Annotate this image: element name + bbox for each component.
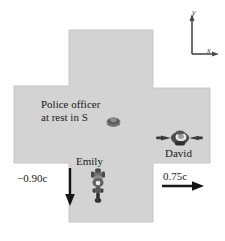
road-diagram: [0, 0, 225, 241]
physics-figure: y x Police officer at rest in S David Em…: [0, 0, 225, 241]
axis-x-arrowhead: [212, 51, 219, 56]
right-arrow-icon: [162, 181, 204, 191]
coordinate-axes: [189, 14, 219, 57]
axis-y-arrowhead: [189, 14, 194, 21]
police-officer-topdown-icon: [107, 117, 121, 126]
